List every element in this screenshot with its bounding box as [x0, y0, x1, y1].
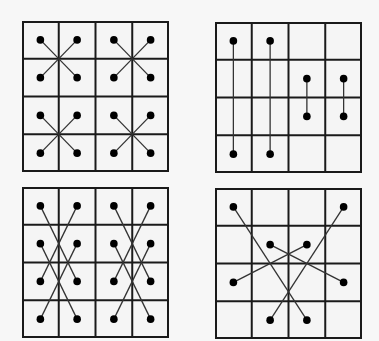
- dot-node: [303, 241, 311, 249]
- grid-diagram-bottom-left: [22, 187, 169, 338]
- grid-panel-top-right: [215, 22, 362, 173]
- dot-node: [110, 240, 118, 248]
- dot-node: [230, 203, 238, 211]
- dot-node: [340, 279, 348, 287]
- dot-node: [266, 316, 274, 324]
- grid-panel-bottom-left: [22, 187, 169, 338]
- dot-node: [147, 278, 155, 286]
- dot-node: [110, 112, 118, 120]
- dot-node: [147, 149, 155, 157]
- dot-node: [37, 278, 45, 286]
- dot-node: [303, 75, 311, 83]
- dot-node: [37, 112, 45, 120]
- dot-node: [266, 150, 274, 158]
- grid-panel-bottom-right: [215, 188, 362, 339]
- dot-node: [73, 74, 81, 82]
- dot-node: [147, 36, 155, 44]
- dot-node: [73, 112, 81, 120]
- dot-node: [147, 315, 155, 323]
- grid-diagram-bottom-right: [215, 188, 362, 339]
- dot-node: [110, 149, 118, 157]
- dot-node: [37, 202, 45, 210]
- dot-node: [110, 315, 118, 323]
- dot-node: [73, 315, 81, 323]
- dot-node: [73, 202, 81, 210]
- dot-node: [230, 37, 238, 45]
- dot-node: [110, 278, 118, 286]
- dot-node: [110, 74, 118, 82]
- dot-node: [266, 241, 274, 249]
- dot-node: [230, 150, 238, 158]
- dot-node: [340, 113, 348, 121]
- dot-node: [37, 74, 45, 82]
- dot-node: [147, 112, 155, 120]
- dot-node: [73, 240, 81, 248]
- dot-node: [230, 279, 238, 287]
- dot-node: [73, 278, 81, 286]
- dot-node: [37, 36, 45, 44]
- dot-node: [37, 240, 45, 248]
- dot-node: [340, 75, 348, 83]
- dot-node: [73, 36, 81, 44]
- grid-diagram-top-left: [22, 21, 169, 172]
- dot-node: [303, 316, 311, 324]
- dot-node: [340, 203, 348, 211]
- grid-diagram-top-right: [215, 22, 362, 173]
- dot-node: [266, 37, 274, 45]
- dot-node: [303, 113, 311, 121]
- dot-node: [73, 149, 81, 157]
- dot-node: [37, 315, 45, 323]
- dot-node: [147, 240, 155, 248]
- grid-panel-top-left: [22, 21, 169, 172]
- dot-node: [110, 202, 118, 210]
- dot-node: [37, 149, 45, 157]
- dot-node: [110, 36, 118, 44]
- dot-node: [147, 202, 155, 210]
- dot-node: [147, 74, 155, 82]
